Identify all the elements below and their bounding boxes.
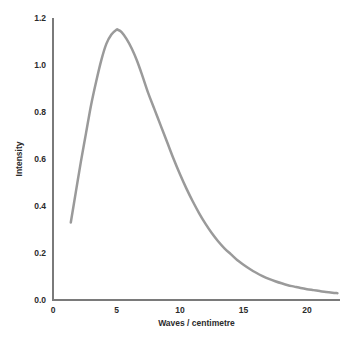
y-tick-label: 0.2 xyxy=(34,248,46,258)
y-tick-label: 1.2 xyxy=(34,13,46,23)
x-tick-label: 10 xyxy=(175,305,185,315)
x-tick-label: 0 xyxy=(51,305,56,315)
y-tick-label: 0.8 xyxy=(34,107,46,117)
x-tick-label: 5 xyxy=(114,305,119,315)
x-tick-label: 15 xyxy=(239,305,249,315)
x-tick-label: 20 xyxy=(302,305,312,315)
y-tick-label: 0.4 xyxy=(34,201,46,211)
intensity-vs-waves-chart: 0.00.20.40.60.81.01.2 05101520 Intensity… xyxy=(0,0,355,345)
x-axis-title: Waves / centimetre xyxy=(158,318,235,328)
chart-container: 0.00.20.40.60.81.01.2 05101520 Intensity… xyxy=(0,0,355,345)
y-axis-title: Intensity xyxy=(14,141,24,176)
y-tick-label: 0.0 xyxy=(34,295,46,305)
y-tick-label: 0.6 xyxy=(34,154,46,164)
y-tick-label: 1.0 xyxy=(34,60,46,70)
